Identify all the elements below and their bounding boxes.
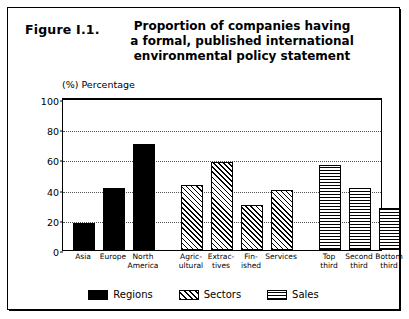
bar bbox=[379, 208, 401, 250]
category-label: NorthAmerica bbox=[124, 253, 162, 270]
y-tick-label: 60 bbox=[47, 156, 59, 167]
y-axis-label: (%) Percentage bbox=[62, 79, 135, 90]
bar bbox=[271, 190, 293, 250]
figure-title-line-2: a formal, published international bbox=[108, 34, 376, 49]
y-tick-label: 0 bbox=[53, 247, 59, 258]
y-tick-label: 80 bbox=[47, 126, 59, 137]
legend-item: Sales bbox=[267, 289, 319, 300]
figure-number: Figure I.1. bbox=[25, 22, 100, 37]
y-tick-label: 20 bbox=[47, 216, 59, 227]
category-label-line: third bbox=[370, 262, 408, 271]
bar bbox=[349, 188, 371, 250]
bar bbox=[211, 162, 233, 250]
y-tick-mark bbox=[60, 221, 63, 222]
bar bbox=[181, 185, 203, 250]
category-label-line: ished bbox=[232, 262, 270, 271]
gridline bbox=[63, 131, 381, 132]
bar bbox=[241, 205, 263, 250]
y-tick-label: 100 bbox=[41, 96, 59, 107]
plot-area: 020406080100 bbox=[62, 98, 382, 251]
y-tick-label: 40 bbox=[47, 186, 59, 197]
y-tick-mark bbox=[60, 252, 63, 253]
y-tick-mark bbox=[60, 101, 63, 102]
bar bbox=[133, 144, 155, 250]
y-tick-mark bbox=[60, 191, 63, 192]
legend-item: Regions bbox=[88, 289, 152, 300]
category-label: Services bbox=[262, 253, 300, 262]
figure-title-line-1: Proportion of companies having bbox=[108, 19, 376, 34]
bar bbox=[73, 223, 95, 250]
category-label-line: Services bbox=[262, 253, 300, 262]
category-label-line: America bbox=[124, 262, 162, 271]
legend-item: Sectors bbox=[179, 289, 241, 300]
legend-label: Sectors bbox=[204, 289, 241, 300]
y-tick-mark bbox=[60, 131, 63, 132]
legend-swatch-icon bbox=[179, 290, 199, 300]
chart-legend: RegionsSectorsSales bbox=[8, 289, 399, 300]
legend-swatch-icon bbox=[267, 290, 287, 300]
legend-swatch-icon bbox=[88, 290, 108, 300]
category-label: Bottomthird bbox=[370, 253, 408, 270]
figure-frame: Figure I.1. Proportion of companies havi… bbox=[7, 7, 400, 310]
y-tick-mark bbox=[60, 161, 63, 162]
figure-title-line-3: environmental policy statement bbox=[108, 49, 376, 64]
figure-title: Proportion of companies having a formal,… bbox=[108, 19, 376, 64]
bar bbox=[319, 165, 341, 250]
bar bbox=[103, 188, 125, 250]
legend-label: Regions bbox=[113, 289, 152, 300]
legend-label: Sales bbox=[292, 289, 319, 300]
